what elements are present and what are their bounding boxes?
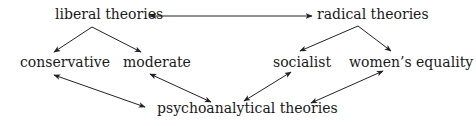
node-conservative: conservative <box>20 54 110 70</box>
node-socialist: socialist <box>273 54 331 70</box>
arrow-moderate-psychoanalytical <box>150 74 211 102</box>
node-radical-theories: radical theories <box>317 6 429 22</box>
node-liberal-theories: liberal theories <box>55 6 163 22</box>
arrow-liberal-conservative <box>54 27 92 52</box>
node-psychoanalytical-theories: psychoanalytical theories <box>157 100 338 116</box>
node-moderate: moderate <box>123 54 191 70</box>
theories-diagram: liberal theories radical theories conser… <box>0 0 476 126</box>
arrow-liberal-moderate <box>92 27 141 52</box>
arrow-radical-socialist <box>300 26 358 51</box>
node-womens-equality: women’s equality <box>349 54 473 70</box>
arrow-socialist-psychoanalytical <box>244 72 291 101</box>
arrow-conservative-psychoanalytical <box>54 75 145 107</box>
arrow-radical-womens-equality <box>358 26 391 51</box>
arrow-womens-equality-psychoanalytical <box>311 71 383 103</box>
